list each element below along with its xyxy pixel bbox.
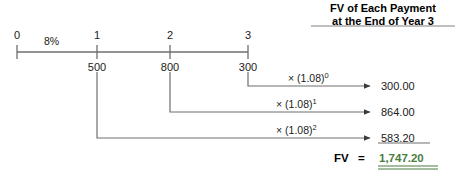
header-title: FV of Each Payment at the End of Year 3 [311,2,455,28]
total-label: FV [334,153,349,165]
factor-base-2: × (1.08) [276,98,312,110]
header-title-line2: at the End of Year 3 [311,15,455,28]
connector-year1 [97,72,117,138]
factor-exponent-3: 2 [312,123,316,132]
compounding-factor-2: × (1.08)1 [276,99,317,110]
future-value-1: 300.00 [381,81,415,92]
connector-year3 [248,72,278,86]
total-equals-sign: = [358,153,365,165]
factor-base-3: × (1.08) [276,124,312,136]
period-label-3: 3 [238,30,258,41]
future-value-3: 583.20 [381,133,415,144]
future-value-2: 864.00 [381,107,415,118]
cashflow-year-3: 300 [231,62,265,73]
fv-timeline-diagram: FV of Each Payment at the End of Year 3 … [0,0,468,176]
connector-year2 [170,72,190,112]
period-label-1: 1 [87,30,107,41]
factor-exponent-1: 0 [324,71,328,80]
cashflow-year-1: 500 [80,62,114,73]
factor-exponent-2: 1 [312,97,316,106]
compounding-factor-1: × (1.08)0 [288,73,329,84]
period-label-2: 2 [160,30,180,41]
compounding-factor-3: × (1.08)2 [276,125,317,136]
cashflow-year-2: 800 [153,62,187,73]
header-title-line1: FV of Each Payment [311,2,455,15]
total-future-value: 1,747.20 [379,153,424,165]
interest-rate-label: 8% [44,36,59,47]
factor-base-1: × (1.08) [288,72,324,84]
period-label-0: 0 [7,30,27,41]
